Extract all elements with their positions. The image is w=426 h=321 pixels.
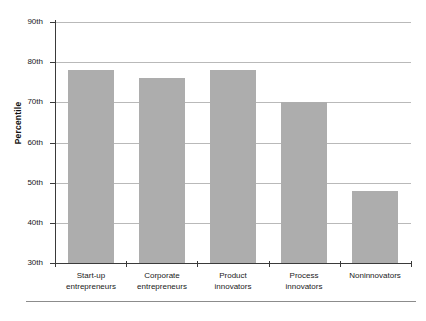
x-axis-tick [269, 261, 270, 267]
y-axis-tick-label: 80th [9, 57, 43, 66]
y-axis-tick-label: 40th [9, 218, 43, 227]
bar [139, 78, 185, 263]
y-axis-tick-label: 60th [9, 138, 43, 147]
x-axis-tick [126, 261, 127, 267]
x-axis-tick-label-line: innovators [259, 281, 349, 292]
x-axis-tick [340, 261, 341, 267]
gridline [55, 62, 411, 63]
bar [68, 70, 114, 263]
x-axis-tick-label-line: Noninnovators [330, 270, 420, 281]
x-axis-tick [55, 261, 56, 267]
y-axis-line [55, 20, 56, 264]
x-axis-tick [197, 261, 198, 267]
y-axis-tick-label: 50th [9, 178, 43, 187]
bar [281, 102, 327, 263]
footer-rule [26, 301, 416, 302]
x-axis-tick [411, 261, 412, 267]
y-axis-tick-label: 70th [9, 97, 43, 106]
x-axis-tick-label: Noninnovators [330, 270, 420, 281]
gridline [55, 22, 411, 23]
bar [352, 191, 398, 263]
x-axis-line [55, 263, 411, 264]
chart-figure: Percentile 30th40th50th60th70th80th90th … [0, 0, 426, 321]
y-axis-title: Percentile [13, 83, 23, 163]
y-axis-tick-label: 30th [9, 258, 43, 267]
y-axis-tick-label: 90th [9, 17, 43, 26]
bar [210, 70, 256, 263]
